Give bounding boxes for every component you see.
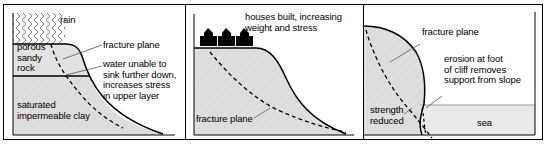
label-sea: sea: [477, 118, 492, 129]
label-fracture-plane-p3: fracture plane: [422, 27, 479, 38]
label-fracture-plane-p1: fracture plane: [103, 40, 160, 51]
rain-hatch-area: [13, 13, 65, 44]
label-water-unable-to-sink: water unable to sink further down, incre…: [103, 59, 176, 101]
cliff-failure-figure: rain porous sandy rock saturated imperme…: [0, 0, 547, 145]
label-erosion-at-foot: erosion at foot of cliff removes support…: [444, 54, 521, 86]
label-fracture-plane-p2: fracture plane: [196, 114, 253, 125]
panel-divider-1: [185, 4, 186, 140]
label-rain: rain: [60, 15, 75, 26]
label-houses-built: houses built, increasing weight and stre…: [245, 12, 342, 33]
panel-divider-2: [363, 4, 364, 140]
house-icon: [200, 28, 217, 46]
label-strength-reduced: strength reduced: [370, 105, 404, 126]
label-saturated-impermeable-clay: saturated impermeable clay: [17, 100, 90, 121]
panel-toe-erosion: fracture plane erosion at foot of cliff …: [364, 4, 543, 140]
house-icon: [218, 28, 235, 46]
panel-houses-loading: houses built, increasing weight and stre…: [186, 4, 363, 140]
label-porous-sandy-rock: porous sandy rock: [17, 42, 45, 74]
panel-rain-infiltration: rain porous sandy rock saturated imperme…: [3, 4, 185, 140]
